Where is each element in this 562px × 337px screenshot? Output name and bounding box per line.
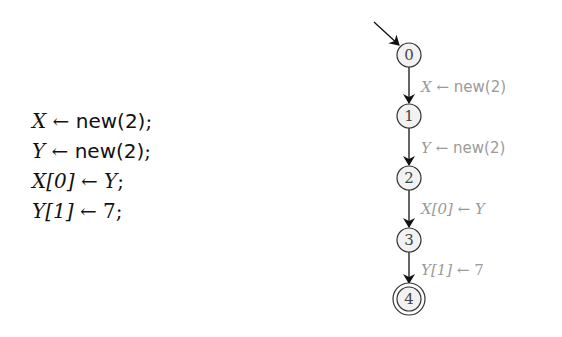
state-3: 3 xyxy=(397,228,421,252)
edge-label-3-4: Y[1] ← 7 xyxy=(421,261,484,279)
initial-arrow xyxy=(374,22,399,45)
state-label: 4 xyxy=(404,290,414,308)
state-0: 0 xyxy=(397,43,421,67)
state-1: 1 xyxy=(397,104,421,128)
state-label: 3 xyxy=(404,231,414,249)
edge-label-1-2: Y ← new(2) xyxy=(421,139,505,157)
state-4-accepting: 4 xyxy=(393,283,425,315)
edge-label-2-3: X[0] ← Y xyxy=(420,200,487,218)
state-2: 2 xyxy=(397,166,421,190)
edge-label-0-1: X ← new(2) xyxy=(420,78,506,96)
state-label: 2 xyxy=(404,169,414,187)
state-label: 1 xyxy=(404,107,414,125)
automaton-diagram: 0 1 2 3 4 X ← new(2) Y ← new(2) X[0] ← Y… xyxy=(0,0,562,337)
state-label: 0 xyxy=(404,46,414,64)
